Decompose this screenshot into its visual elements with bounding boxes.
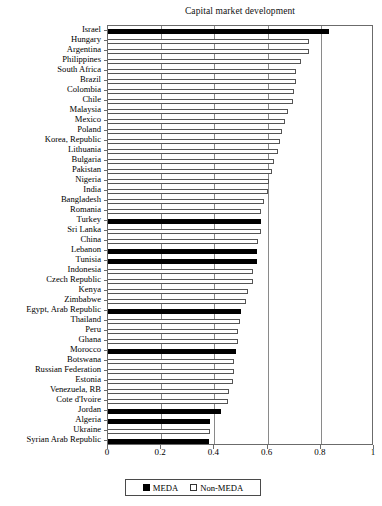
bar-czech-republic xyxy=(108,279,253,284)
bar-india xyxy=(108,189,268,194)
bar-row xyxy=(108,216,372,226)
bar-morocco xyxy=(108,349,236,354)
bar-philippines xyxy=(108,59,301,64)
bar-row xyxy=(108,166,372,176)
bar-algeria xyxy=(108,419,210,424)
bar-row xyxy=(108,256,372,266)
y-label: Pakistan xyxy=(72,165,101,174)
bar-tunisia xyxy=(108,259,257,264)
y-label: Lithuania xyxy=(68,145,101,154)
y-label: Czech Republic xyxy=(46,275,101,284)
y-label: Ukraine xyxy=(73,425,101,434)
y-label: Thailand xyxy=(70,315,101,324)
bar-poland xyxy=(108,129,282,134)
y-label: Tunisia xyxy=(76,255,101,264)
y-label: Poland xyxy=(77,125,101,134)
bar-row xyxy=(108,56,372,66)
x-tick-label: 0.2 xyxy=(155,447,166,457)
bar-row xyxy=(108,26,372,36)
bar-row xyxy=(108,186,372,196)
bar-brazil xyxy=(108,79,296,84)
bar-row xyxy=(108,86,372,96)
bar-indonesia xyxy=(108,269,253,274)
bar-malaysia xyxy=(108,109,288,114)
bar-syrian-arab-republic xyxy=(108,439,209,444)
x-tick-label: 1 xyxy=(371,447,376,457)
bar-hungary xyxy=(108,39,309,44)
bar-row xyxy=(108,346,372,356)
bar-israel xyxy=(108,29,329,34)
y-label: Korea, Republic xyxy=(45,135,101,144)
bar-ghana xyxy=(108,339,238,344)
y-label: Nigeria xyxy=(75,175,101,184)
bar-botswana xyxy=(108,359,234,364)
bar-row xyxy=(108,126,372,136)
bar-row xyxy=(108,386,372,396)
bar-zimbabwe xyxy=(108,299,246,304)
bar-lithuania xyxy=(108,149,278,154)
bar-row xyxy=(108,266,372,276)
y-label: Ghana xyxy=(79,335,101,344)
bar-row xyxy=(108,396,372,406)
bar-series-container xyxy=(108,26,372,444)
bar-row xyxy=(108,196,372,206)
y-label: Jordan xyxy=(78,405,101,414)
y-label: India xyxy=(83,185,101,194)
bar-row xyxy=(108,436,372,446)
bar-south-africa xyxy=(108,69,296,74)
bar-chile xyxy=(108,99,293,104)
bar-peru xyxy=(108,329,238,334)
bar-row xyxy=(108,206,372,216)
bar-row xyxy=(108,116,372,126)
bar-row xyxy=(108,286,372,296)
y-label: Lebanon xyxy=(71,245,101,254)
bar-row xyxy=(108,426,372,436)
y-label: Colombia xyxy=(67,85,101,94)
bar-cote-d-ivoire xyxy=(108,399,228,404)
y-label: Syrian Arab Republic xyxy=(27,435,101,444)
y-axis-category-labels: IsraelHungaryArgentinaPhilippinesSouth A… xyxy=(0,25,104,445)
legend-swatch-non-meda-icon xyxy=(190,484,197,491)
bar-argentina xyxy=(108,49,309,54)
y-label: South Africa xyxy=(57,65,101,74)
bar-sri-lanka xyxy=(108,229,261,234)
bar-turkey xyxy=(108,219,261,224)
bar-pakistan xyxy=(108,169,272,174)
bar-row xyxy=(108,276,372,286)
bar-row xyxy=(108,156,372,166)
bar-row xyxy=(108,316,372,326)
y-label: Russian Federation xyxy=(35,365,101,374)
bar-egypt-arab-republic xyxy=(108,309,241,314)
bar-thailand xyxy=(108,319,240,324)
bar-colombia xyxy=(108,89,294,94)
bar-row xyxy=(108,356,372,366)
chart-title: Capital market development xyxy=(107,6,373,16)
bar-kenya xyxy=(108,289,248,294)
bar-ukraine xyxy=(108,429,210,434)
bar-row xyxy=(108,66,372,76)
bar-row xyxy=(108,136,372,146)
y-label: Chile xyxy=(82,95,101,104)
bar-row xyxy=(108,306,372,316)
bar-row xyxy=(108,296,372,306)
y-label: Israel xyxy=(82,25,101,34)
bar-russian-federation xyxy=(108,369,234,374)
y-label: Malaysia xyxy=(69,105,101,114)
bar-mexico xyxy=(108,119,285,124)
y-label: Bulgaria xyxy=(71,155,101,164)
y-label: Egypt, Arab Republic xyxy=(26,305,101,314)
bar-row xyxy=(108,76,372,86)
legend-entry-non-meda: Non-MEDA xyxy=(190,483,243,493)
bar-row xyxy=(108,46,372,56)
bar-row xyxy=(108,36,372,46)
bar-row xyxy=(108,366,372,376)
y-label: Kenya xyxy=(79,285,101,294)
x-tick-label: 0.8 xyxy=(314,447,325,457)
bar-estonia xyxy=(108,379,233,384)
bar-romania xyxy=(108,209,261,214)
bar-jordan xyxy=(108,409,221,414)
legend-label-non-meda: Non-MEDA xyxy=(200,483,243,493)
y-label: Mexico xyxy=(75,115,101,124)
bar-row xyxy=(108,416,372,426)
legend-entry-meda: MEDA xyxy=(143,483,178,493)
